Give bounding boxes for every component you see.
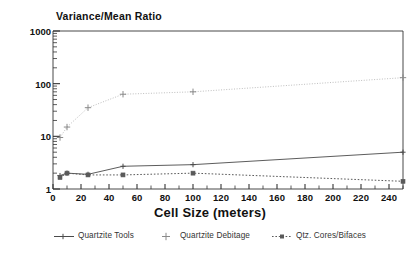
x-tick-label: 40	[104, 192, 115, 203]
x-tick-label: 160	[269, 192, 285, 203]
y-tick-label: 10	[19, 131, 51, 142]
chart-figure: Variance/Mean Ratio 1101001000 020406080…	[0, 0, 420, 257]
legend-label: Quartzite Debitage	[180, 232, 250, 240]
x-axis-label: Cell Size (meters)	[0, 205, 420, 220]
data-point-marker	[121, 173, 125, 177]
x-tick-label: 0	[50, 192, 55, 203]
legend-marker-icon	[272, 232, 292, 241]
x-tick-label: 180	[297, 192, 313, 203]
data-point-marker	[65, 171, 69, 175]
data-point-marker	[58, 176, 62, 180]
series-line-1	[60, 78, 403, 138]
legend-label: Quartzite Tools	[78, 232, 134, 240]
x-tick-label: 120	[213, 192, 229, 203]
plot-frame	[53, 31, 403, 189]
legend-item-2[interactable]: Qtz. Cores/Bifaces	[272, 232, 366, 241]
legend-item-0[interactable]: Quartzite Tools	[54, 232, 134, 241]
y-tick-label: 1000	[19, 26, 51, 37]
x-tick-label: 220	[353, 192, 369, 203]
legend-label: Qtz. Cores/Bifaces	[296, 232, 366, 240]
y-tick-label: 1	[19, 184, 51, 195]
x-tick-label: 100	[185, 192, 201, 203]
legend-marker-icon	[156, 232, 176, 241]
chart-legend: Quartzite ToolsQuartzite DebitageQtz. Co…	[0, 232, 420, 241]
x-tick-label: 140	[241, 192, 257, 203]
x-tick-label: 20	[76, 192, 87, 203]
data-point-marker	[191, 171, 195, 175]
data-point-marker	[86, 173, 90, 177]
x-tick-label: 240	[381, 192, 397, 203]
y-tick-label: 100	[19, 78, 51, 89]
series-line-0	[60, 152, 403, 175]
x-tick-label: 200	[325, 192, 341, 203]
series-line-2	[60, 173, 403, 181]
legend-marker-icon	[54, 232, 74, 241]
chart-title: Variance/Mean Ratio	[56, 10, 162, 22]
x-tick-label: 60	[132, 192, 143, 203]
data-point-marker	[401, 179, 405, 183]
x-tick-label: 80	[160, 192, 171, 203]
legend-item-1[interactable]: Quartzite Debitage	[156, 232, 250, 241]
